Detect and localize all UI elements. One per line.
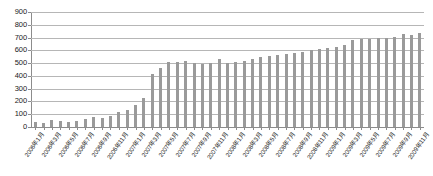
bar [268, 56, 271, 127]
y-tick-mark [28, 114, 31, 115]
bar [326, 48, 329, 127]
x-tick-mark [345, 128, 346, 130]
x-tick-mark [77, 128, 78, 130]
x-tick-mark [110, 128, 111, 130]
bar [226, 63, 229, 127]
bar [243, 61, 246, 127]
bar [167, 62, 170, 127]
x-tick-mark [35, 128, 36, 130]
x-tick-mark [85, 128, 86, 130]
x-tick-mark [386, 128, 387, 130]
y-tick-label: 500 [15, 59, 27, 67]
x-tick-mark [261, 128, 262, 130]
bar [360, 39, 363, 127]
bar [126, 110, 129, 127]
x-tick-mark [336, 128, 337, 130]
bar [402, 34, 405, 127]
bar [34, 122, 37, 127]
x-tick-mark [177, 128, 178, 130]
y-tick-label: 800 [15, 21, 27, 29]
x-tick-mark [119, 128, 120, 130]
bar [368, 39, 371, 127]
x-tick-mark [311, 128, 312, 130]
x-tick-mark [127, 128, 128, 130]
x-tick-mark [52, 128, 53, 130]
bar [351, 40, 354, 127]
y-tick-mark [28, 89, 31, 90]
bar [335, 47, 338, 128]
gridline [31, 38, 424, 39]
y-tick-mark [28, 25, 31, 26]
x-tick-mark [161, 128, 162, 130]
x-tick-mark [244, 128, 245, 130]
y-tick-label: 200 [15, 97, 27, 105]
x-tick-mark [236, 128, 237, 130]
x-tick-mark [60, 128, 61, 130]
y-tick-label: 0 [23, 123, 27, 131]
y-tick-label: 400 [15, 72, 27, 80]
x-tick-mark [202, 128, 203, 130]
x-tick-mark [353, 128, 354, 130]
y-tick-mark [28, 12, 31, 13]
x-tick-mark [403, 128, 404, 130]
bar [159, 68, 162, 127]
y-tick-label: 600 [15, 46, 27, 54]
bar [310, 50, 313, 127]
x-tick-mark [228, 128, 229, 130]
bar [301, 52, 304, 127]
bar [234, 62, 237, 127]
x-tick-mark [44, 128, 45, 130]
bar [67, 122, 70, 127]
bar [293, 53, 296, 127]
y-tick-label: 900 [15, 8, 27, 16]
x-tick-mark [395, 128, 396, 130]
gridline [31, 12, 424, 13]
x-tick-mark [219, 128, 220, 130]
bar [276, 55, 279, 127]
bar [393, 37, 396, 127]
y-tick-label: 300 [15, 85, 27, 93]
x-tick-mark [94, 128, 95, 130]
x-tick-mark [286, 128, 287, 130]
bar [343, 45, 346, 127]
x-tick-mark [102, 128, 103, 130]
bar [259, 57, 262, 127]
bar [50, 120, 53, 127]
bar [142, 98, 145, 127]
bar [201, 64, 204, 127]
y-tick-label: 100 [15, 110, 27, 118]
x-tick-mark [152, 128, 153, 130]
bar [92, 117, 95, 127]
x-tick-mark [411, 128, 412, 130]
bar [385, 38, 388, 127]
x-tick-mark [303, 128, 304, 130]
x-tick-mark [420, 128, 421, 130]
bar [251, 59, 254, 127]
x-tick-mark [361, 128, 362, 130]
bar [410, 35, 413, 127]
x-tick-mark [194, 128, 195, 130]
gridline [31, 25, 424, 26]
y-tick-mark [28, 76, 31, 77]
x-tick-mark [378, 128, 379, 130]
x-tick-mark [269, 128, 270, 130]
bar [59, 121, 62, 127]
bar [176, 62, 179, 127]
bar [75, 121, 78, 127]
bar-chart: 9008007006005004003002001000 2006年1月2006… [0, 0, 433, 176]
x-tick-mark [319, 128, 320, 130]
bar [209, 63, 212, 127]
y-tick-mark [28, 50, 31, 51]
x-tick-mark [278, 128, 279, 130]
bar [318, 49, 321, 127]
bar [218, 59, 221, 127]
bar [418, 33, 421, 127]
gridline [31, 50, 424, 51]
x-tick-mark [211, 128, 212, 130]
bar [42, 123, 45, 127]
bar [285, 54, 288, 127]
x-tick-mark [144, 128, 145, 130]
bar [84, 119, 87, 127]
bar [184, 61, 187, 127]
bar [151, 74, 154, 127]
